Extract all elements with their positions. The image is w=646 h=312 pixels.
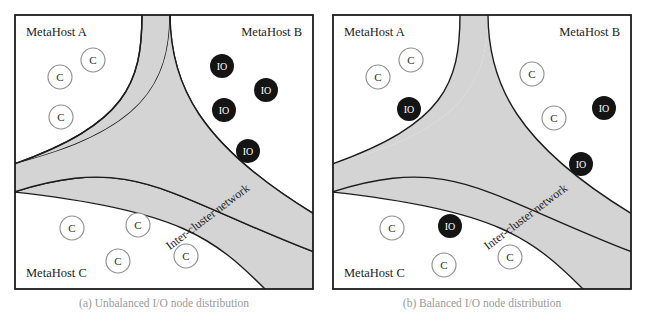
compute-node[interactable]: C bbox=[498, 245, 522, 269]
compute-node[interactable]: C bbox=[106, 249, 130, 273]
host-label-metahost-c: MetaHost C bbox=[26, 266, 87, 280]
host-label-metahost-b: MetaHost B bbox=[559, 25, 620, 39]
io-node[interactable]: IO bbox=[397, 97, 421, 121]
compute-node-label: C bbox=[68, 222, 75, 234]
compute-node[interactable]: C bbox=[60, 216, 84, 240]
compute-node-label: C bbox=[440, 259, 447, 271]
io-node-label: IO bbox=[243, 146, 254, 157]
compute-node[interactable]: C bbox=[126, 213, 150, 237]
compute-node[interactable]: C bbox=[520, 62, 544, 86]
host-label-metahost-a: MetaHost A bbox=[26, 25, 87, 39]
io-node-label: IO bbox=[576, 159, 587, 170]
io-node[interactable]: IO bbox=[210, 54, 234, 78]
io-node-label: IO bbox=[261, 85, 272, 96]
compute-node-label: C bbox=[89, 54, 96, 66]
compute-node[interactable]: C bbox=[366, 65, 390, 89]
io-node-label: IO bbox=[217, 61, 228, 72]
io-node[interactable]: IO bbox=[254, 78, 278, 102]
io-node[interactable]: IO bbox=[592, 96, 616, 120]
host-label-metahost-c: MetaHost C bbox=[344, 266, 405, 280]
io-node-label: IO bbox=[404, 104, 415, 115]
io-node-label: IO bbox=[445, 221, 456, 232]
host-label-metahost-a: MetaHost A bbox=[344, 25, 405, 39]
compute-node-label: C bbox=[374, 71, 381, 83]
compute-node[interactable]: C bbox=[399, 48, 423, 72]
compute-node[interactable]: C bbox=[49, 105, 73, 129]
compute-node-label: C bbox=[407, 54, 414, 66]
io-node[interactable]: IO bbox=[212, 98, 236, 122]
panel-a: Inter-cluster network MetaHost A MetaHos… bbox=[14, 14, 314, 290]
panel-a-caption: (a) Unbalanced I/O node distribution bbox=[14, 296, 314, 311]
io-node-label: IO bbox=[599, 103, 610, 114]
compute-node-label: C bbox=[57, 111, 64, 123]
compute-node[interactable]: C bbox=[48, 65, 72, 89]
compute-node-label: C bbox=[114, 255, 121, 267]
io-node[interactable]: IO bbox=[236, 139, 260, 163]
caption-row: (a) Unbalanced I/O node distribution (b)… bbox=[0, 296, 646, 312]
compute-node[interactable]: C bbox=[542, 106, 566, 130]
compute-node[interactable]: C bbox=[81, 48, 105, 72]
io-node[interactable]: IO bbox=[569, 152, 593, 176]
compute-node-label: C bbox=[388, 222, 395, 234]
compute-node[interactable]: C bbox=[174, 244, 198, 268]
io-node-label: IO bbox=[219, 105, 230, 116]
compute-node-label: C bbox=[506, 251, 513, 263]
io-node[interactable]: IO bbox=[438, 214, 462, 238]
compute-node[interactable]: C bbox=[432, 253, 456, 277]
compute-node-label: C bbox=[134, 219, 141, 231]
compute-node-label: C bbox=[550, 112, 557, 124]
compute-node[interactable]: C bbox=[380, 216, 404, 240]
compute-node-label: C bbox=[56, 71, 63, 83]
compute-node-label: C bbox=[528, 68, 535, 80]
panel-b: Inter-cluster network MetaHost A MetaHos… bbox=[332, 14, 632, 290]
host-label-metahost-b: MetaHost B bbox=[241, 25, 302, 39]
panel-b-caption: (b) Balanced I/O node distribution bbox=[332, 296, 632, 311]
compute-node-label: C bbox=[182, 250, 189, 262]
figure-container: Inter-cluster network MetaHost A MetaHos… bbox=[0, 0, 646, 312]
